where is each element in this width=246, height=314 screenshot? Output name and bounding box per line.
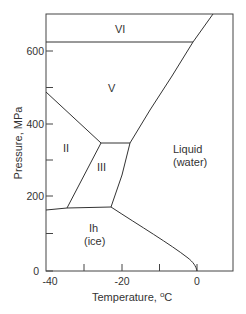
region-label-v: V [108,82,116,94]
iii-liquid-boundary [111,143,130,207]
region-label-ice: (ice) [84,235,105,247]
region-label-ih: Ih [89,222,98,234]
y-tick-label-0: 0 [33,265,39,277]
v-liquid-boundary [130,42,193,143]
region-label-iii: III [97,161,106,173]
iii-ih-boundary [67,207,111,208]
vi-liquid-boundary [193,14,213,42]
region-label-ii: II [63,142,69,154]
v-ii-boundary [46,92,101,143]
region-label-vi: VI [115,23,125,35]
x-tick-label-neg40: -40 [42,275,57,287]
x-axis-ticks [84,264,197,271]
y-axis-label: Pressure, MPa [12,106,24,180]
y-tick-label-400: 400 [26,118,44,130]
ii-iii-lower-boundary [67,143,101,208]
x-tick-label-neg20: -20 [114,275,129,287]
phase-diagram-chart: VI V II III Ih (ice) Liquid (water) 0 20… [0,0,246,314]
y-tick-label-600: 600 [26,45,44,57]
plot-frame [46,14,233,271]
region-label-liquid: Liquid [173,143,202,155]
ih-liquid-boundary [111,207,197,271]
x-axis-label: Temperature, oC [92,290,172,303]
region-label-water: (water) [173,156,207,168]
y-tick-label-200: 200 [26,190,44,202]
x-tick-label-0: 0 [194,275,200,287]
y-axis-ticks [46,51,53,271]
ii-ih-boundary [46,208,67,210]
